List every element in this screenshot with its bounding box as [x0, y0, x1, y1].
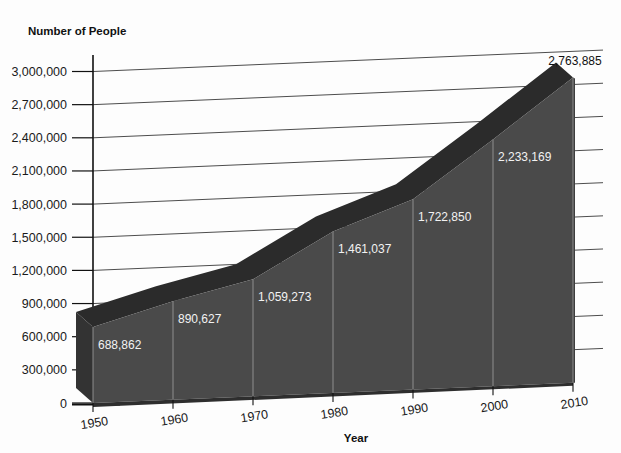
data-value-label: 2,763,885	[548, 54, 602, 68]
data-value-label: 1,059,273	[258, 290, 312, 304]
data-value-label: 2,233,169	[498, 150, 552, 164]
y-axis-title: Number of People	[28, 25, 126, 37]
y-axis-tick-label: 2,100,000	[11, 164, 67, 178]
y-axis-tick-label: 900,000	[22, 297, 67, 311]
y-axis-tick-label: 300,000	[22, 363, 67, 377]
area-left-side-face	[76, 312, 93, 403]
data-value-label: 1,461,037	[338, 242, 392, 256]
population-area-chart: Number of People 3,000,0002,700,0002,400…	[0, 0, 621, 453]
data-value-label: 688,862	[98, 338, 142, 352]
y-axis-tick-label: 600,000	[22, 330, 67, 344]
y-axis-tick-label: 0	[60, 397, 67, 411]
data-value-label: 890,627	[178, 312, 222, 326]
y-axis-tick-label: 1,500,000	[11, 231, 67, 245]
y-axis-tick-label: 2,700,000	[11, 98, 67, 112]
y-axis-tick-label: 1,200,000	[11, 264, 67, 278]
y-axis-tick-label: 2,400,000	[11, 131, 67, 145]
y-axis-tick-label: 3,000,000	[11, 65, 67, 79]
chart-container: Number of People 3,000,0002,700,0002,400…	[0, 0, 621, 453]
data-value-label: 1,722,850	[418, 210, 472, 224]
x-axis-title: Year	[344, 432, 369, 444]
y-axis-tick-label: 1,800,000	[11, 198, 67, 212]
